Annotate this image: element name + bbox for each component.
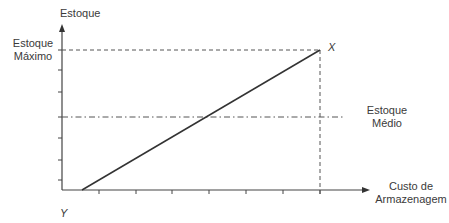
- x-axis-label-line2: Armazenagem: [374, 193, 448, 206]
- avg-stock-label: Estoque Médio: [357, 104, 417, 130]
- avg-stock-label-line2: Médio: [357, 117, 417, 130]
- max-stock-label-line2: Máximo: [8, 50, 58, 63]
- x-axis-label-line1: Custo de: [374, 180, 448, 193]
- stock-cost-line: [82, 50, 320, 190]
- max-stock-label-line1: Estoque: [8, 37, 58, 50]
- x-ticks: [99, 190, 320, 194]
- x-axis-arrow-icon: [362, 187, 370, 193]
- avg-stock-label-line1: Estoque: [357, 104, 417, 117]
- y-axis-label: Estoque: [60, 7, 100, 20]
- max-stock-label: Estoque Máximo: [8, 37, 58, 63]
- x-axis-label: Custo de Armazenagem: [374, 180, 448, 206]
- point-y-label: Y: [60, 207, 67, 220]
- point-x-label: X: [328, 41, 335, 54]
- y-axis-arrow-icon: [59, 24, 65, 32]
